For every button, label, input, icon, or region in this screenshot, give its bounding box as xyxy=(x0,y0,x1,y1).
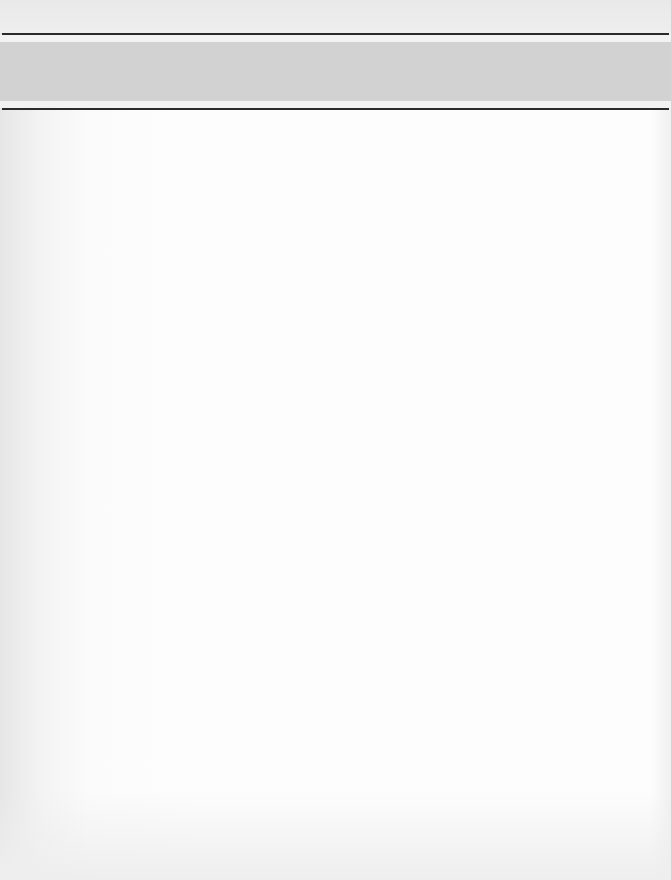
header-gap-top xyxy=(0,35,671,42)
header-band xyxy=(0,42,671,101)
page-body xyxy=(0,110,671,850)
header-gap-bottom xyxy=(0,101,671,108)
page-bottom-shading xyxy=(0,790,671,880)
page-top-margin xyxy=(0,0,671,33)
